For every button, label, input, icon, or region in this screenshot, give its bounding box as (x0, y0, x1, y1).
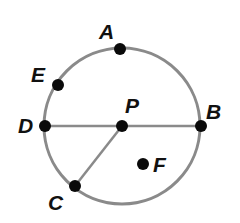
label-a: A (98, 20, 114, 43)
label-f: F (153, 153, 167, 176)
point-e (52, 79, 64, 91)
segment-pc (75, 126, 122, 186)
point-a (114, 43, 126, 55)
label-c: C (48, 191, 64, 214)
point-p (116, 120, 128, 132)
label-b: B (206, 100, 221, 123)
point-c (69, 180, 81, 192)
diagram-points (39, 43, 207, 192)
label-e: E (31, 63, 46, 86)
point-d (39, 120, 51, 132)
label-p: P (125, 94, 140, 117)
circle-diagram: AEDPBCF (0, 0, 240, 223)
point-f (137, 158, 149, 170)
label-d: D (18, 114, 33, 137)
